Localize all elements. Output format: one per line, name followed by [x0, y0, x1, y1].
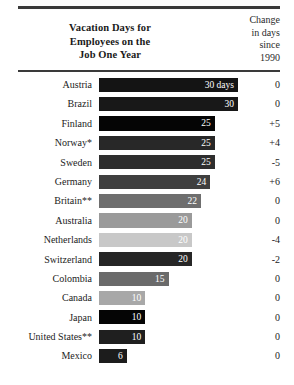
value-bar: 10	[99, 310, 145, 324]
change-value: +4	[236, 136, 280, 149]
change-header-line-3: since	[210, 39, 280, 52]
change-value: 0	[236, 272, 280, 285]
change-value: 0	[236, 330, 280, 343]
bar-wrapper: 10	[99, 310, 145, 324]
chart-row: Britain**220	[0, 191, 294, 210]
change-column-header: Change in days since 1990	[210, 14, 280, 64]
bar-wrapper: 20	[99, 252, 192, 266]
country-label: United States**	[0, 330, 92, 343]
chart-row: Norway*25+4	[0, 133, 294, 152]
value-bar: 20	[99, 252, 192, 266]
change-header-line-2: in days	[210, 27, 280, 40]
country-label: Switzerland	[0, 253, 92, 266]
value-bar: 30 days	[99, 78, 238, 92]
change-header-line-1: Change	[210, 14, 280, 27]
value-bar: 24	[99, 175, 210, 189]
bar-wrapper: 22	[99, 194, 201, 208]
chart-header: Vacation Days for Employees on the Job O…	[0, 14, 294, 68]
bar-value-label: 10	[132, 330, 142, 344]
bar-value-label: 25	[201, 136, 211, 150]
country-label: Sweden	[0, 156, 92, 169]
country-label: Mexico	[0, 349, 92, 362]
change-value: 0	[236, 97, 280, 110]
vacation-days-chart: Vacation Days for Employees on the Job O…	[0, 0, 294, 385]
bar-value-label: 24	[197, 175, 207, 189]
value-bar: 25	[99, 155, 215, 169]
top-rule	[18, 6, 280, 9]
change-value: -4	[236, 233, 280, 246]
chart-row: Germany24+6	[0, 172, 294, 191]
chart-row: United States**100	[0, 327, 294, 346]
chart-row: Finland25+5	[0, 114, 294, 133]
bar-value-label: 25	[201, 116, 211, 130]
bar-wrapper: 10	[99, 330, 145, 344]
chart-row: Sweden25-5	[0, 153, 294, 172]
country-label: Germany	[0, 175, 92, 188]
country-label: Canada	[0, 291, 92, 304]
bar-wrapper: 25	[99, 116, 215, 130]
chart-row: Brazil300	[0, 94, 294, 113]
chart-row: Austria30 days0	[0, 75, 294, 94]
value-bar: 30	[99, 97, 238, 111]
chart-row: Mexico60	[0, 346, 294, 365]
bar-value-label: 20	[178, 233, 188, 247]
chart-rows: Austria30 days0Brazil300Finland25+5Norwa…	[0, 75, 294, 366]
country-label: Japan	[0, 311, 92, 324]
value-bar: 6	[99, 349, 127, 363]
change-value: 0	[236, 291, 280, 304]
change-value: 0	[236, 194, 280, 207]
change-value: +5	[236, 117, 280, 130]
bar-value-label: 30	[225, 97, 235, 111]
header-underline-rule	[18, 70, 280, 72]
chart-row: Australia200	[0, 211, 294, 230]
change-value: 0	[236, 78, 280, 91]
country-label: Britain**	[0, 194, 92, 207]
change-value: 0	[236, 311, 280, 324]
title-line-2: Employees on the	[10, 35, 210, 49]
chart-row: Colombia150	[0, 269, 294, 288]
bar-value-label: 20	[178, 213, 188, 227]
bar-value-label: 15	[155, 272, 165, 286]
bar-wrapper: 25	[99, 155, 215, 169]
country-label: Brazil	[0, 97, 92, 110]
value-bar: 20	[99, 233, 192, 247]
bar-wrapper: 24	[99, 175, 210, 189]
country-label: Australia	[0, 214, 92, 227]
bar-value-label: 30 days	[205, 78, 234, 92]
value-bar: 15	[99, 272, 169, 286]
bar-value-label: 25	[201, 155, 211, 169]
change-value: 0	[236, 214, 280, 227]
value-bar: 10	[99, 291, 145, 305]
bar-wrapper: 10	[99, 291, 145, 305]
change-value: +6	[236, 175, 280, 188]
bar-wrapper: 30	[99, 97, 238, 111]
page-title: Vacation Days for Employees on the Job O…	[10, 21, 210, 62]
bar-value-label: 10	[132, 310, 142, 324]
value-bar: 20	[99, 213, 192, 227]
bar-wrapper: 6	[99, 349, 127, 363]
bar-wrapper: 15	[99, 272, 169, 286]
chart-row: Canada100	[0, 288, 294, 307]
bar-value-label: 6	[118, 349, 123, 363]
bar-value-label: 22	[187, 194, 197, 208]
value-bar: 25	[99, 116, 215, 130]
chart-row: Switzerland20-2	[0, 250, 294, 269]
value-bar: 25	[99, 136, 215, 150]
country-label: Norway*	[0, 136, 92, 149]
bar-wrapper: 20	[99, 213, 192, 227]
bar-wrapper: 30 days	[99, 78, 238, 92]
country-label: Colombia	[0, 272, 92, 285]
bar-value-label: 20	[178, 252, 188, 266]
title-line-1: Vacation Days for	[10, 21, 210, 35]
chart-row: Japan100	[0, 308, 294, 327]
country-label: Finland	[0, 117, 92, 130]
change-value: 0	[236, 349, 280, 362]
change-value: -5	[236, 156, 280, 169]
chart-row: Netherlands20-4	[0, 230, 294, 249]
bar-wrapper: 25	[99, 136, 215, 150]
country-label: Austria	[0, 78, 92, 91]
change-value: -2	[236, 253, 280, 266]
country-label: Netherlands	[0, 233, 92, 246]
value-bar: 22	[99, 194, 201, 208]
value-bar: 10	[99, 330, 145, 344]
